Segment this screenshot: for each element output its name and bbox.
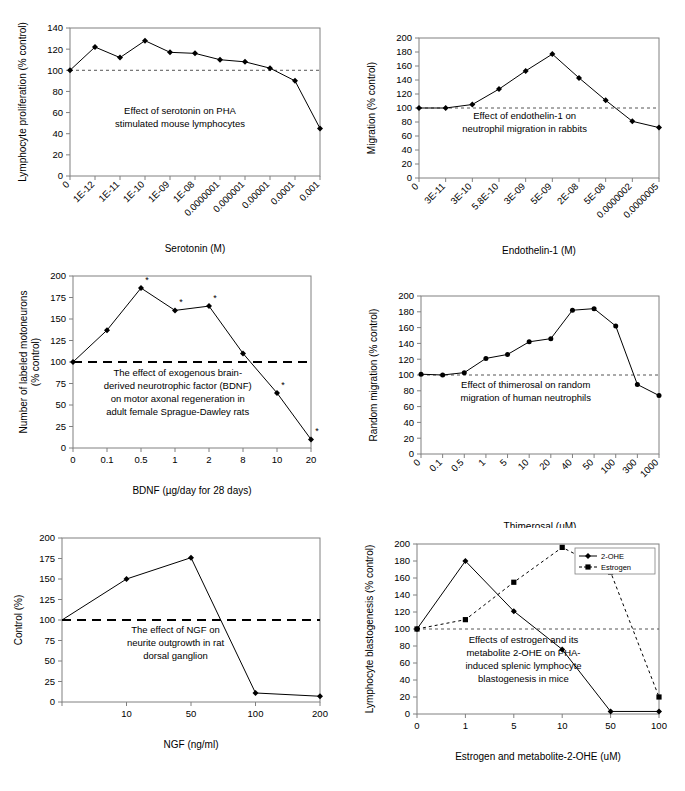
y-axis-title: Control (%): [13, 595, 24, 646]
x-tick-label: 40: [559, 457, 574, 472]
y-tick-label: 160: [394, 572, 410, 583]
chart-panel-serotonin: 02040608010012014001E-121E-111E-101E-091…: [0, 0, 343, 264]
x-tick-label: 50: [186, 708, 197, 719]
chart-annotation-line: The effect of exogenous brain-: [113, 367, 242, 378]
y-tick-label: 0: [61, 442, 66, 453]
significance-asterisk: *: [179, 297, 183, 307]
y-tick-label: 175: [39, 553, 55, 564]
y-tick-label: 200: [396, 32, 412, 43]
y-tick-label: 20: [403, 433, 414, 444]
y-tick-label: 160: [398, 322, 414, 333]
y-tick-label: 50: [44, 655, 55, 666]
y-axis-title: Number of labeled motoneurons: [18, 291, 29, 434]
y-tick-label: 50: [55, 399, 66, 410]
y-tick-label: 40: [399, 674, 410, 685]
y-tick-label: 80: [401, 116, 412, 127]
y-tick-label: 20: [52, 149, 63, 160]
y-tick-label: 150: [39, 573, 55, 584]
x-tick-label: 0.1: [100, 454, 113, 465]
chart-annotation-line: Effect of serotonin on PHA: [124, 105, 236, 116]
chart-annotation-line: The effect of NGF on: [131, 624, 220, 635]
y-tick-label: 100: [396, 102, 412, 113]
x-tick-label: 100: [248, 708, 264, 719]
chart-annotation-line: neurite outgrowth in rat: [127, 637, 225, 648]
y-tick-label: 140: [394, 589, 410, 600]
significance-asterisk: *: [213, 293, 217, 303]
y-tick-label: 100: [47, 65, 63, 76]
y-tick-label: 140: [47, 22, 63, 33]
x-tick-label: 2: [206, 454, 211, 465]
y-axis-title: Random migration (% control): [368, 309, 379, 442]
x-tick-label: 300: [620, 457, 639, 476]
y-tick-label: 140: [396, 74, 412, 85]
x-tick-label: 5.8E-10: [469, 181, 500, 212]
x-tick-label: 0.5: [449, 457, 466, 474]
chart-annotation-line: Effect of thimerosal on random: [461, 379, 590, 390]
chart-annotation-line: blastogenesis in mice: [478, 673, 569, 684]
chart-annotation-line: Effect of endothelin-1 on: [473, 110, 576, 121]
y-tick-label: 60: [52, 107, 63, 118]
chart-annotation-line: neutrophil migration in rabbits: [462, 123, 587, 134]
x-tick-label: 0.0001: [268, 179, 296, 207]
x-tick-label: 200: [312, 708, 328, 719]
chart-panel-d-thimerosal: 02040608010012014016018020000.10.5151020…: [343, 264, 685, 528]
y-tick-label: 25: [44, 676, 55, 687]
x-tick-label: 8: [240, 454, 245, 465]
x-tick-label: 5E-09: [528, 181, 554, 207]
figure-panel-grid: 02040608010012014001E-121E-111E-101E-091…: [0, 0, 685, 791]
chart-panel-endothelin: 02040608010012014016018020003E-113E-105.…: [343, 0, 685, 264]
chart-panel-f-estrogen: 0204060801001201401601802000151050100Lym…: [343, 528, 685, 791]
y-tick-label: 20: [401, 158, 412, 169]
chart-annotation-line: induced splenic lymphocyte: [465, 660, 581, 671]
x-tick-label: 0.00001: [239, 179, 271, 211]
significance-asterisk: *: [281, 380, 285, 390]
x-tick-label: 20: [537, 457, 552, 472]
x-axis-title: NGF (ng/ml): [164, 739, 219, 750]
chart-panel-thimerosal: 02040608010012014016018020000.10.5151020…: [343, 264, 685, 528]
x-tick-label: 1: [476, 457, 488, 469]
y-tick-label: 160: [396, 60, 412, 71]
x-tick-label: 0: [70, 454, 75, 465]
x-tick-label: 1E-09: [146, 179, 172, 205]
y-axis-title: Lymphocyte blastogenesis (% control): [364, 545, 375, 714]
x-tick-label: 10: [515, 457, 530, 472]
y-tick-label: 140: [398, 338, 414, 349]
x-axis-title: Estrogen and metabolite-2-OHE (uM): [455, 751, 621, 762]
x-tick-label: 0.5: [134, 454, 147, 465]
y-tick-label: 60: [403, 401, 414, 412]
y-tick-label: 100: [39, 614, 55, 625]
legend-label: Estrogen: [601, 563, 631, 572]
chart-panel-bdnf: 025507510012515017520000.10.51281020****…: [0, 264, 343, 528]
x-tick-label: 10: [121, 708, 132, 719]
y-tick-label: 125: [50, 335, 66, 346]
x-axis-title: Thimerosal (uM): [504, 521, 577, 528]
y-tick-label: 200: [398, 290, 414, 301]
y-tick-label: 200: [394, 538, 410, 549]
y-tick-label: 0: [50, 696, 55, 707]
chart-panel-a-serotonin: 02040608010012014001E-121E-111E-101E-091…: [0, 0, 343, 264]
y-tick-label: 200: [50, 270, 66, 281]
x-tick-label: 1E-11: [96, 179, 121, 204]
x-tick-label: 50: [580, 457, 595, 472]
x-tick-label: 100: [598, 457, 617, 476]
y-tick-label: 40: [403, 417, 414, 428]
legend-label: 2-OHE: [601, 552, 624, 561]
chart-annotation-line: stimulated mouse lymphocytes: [115, 118, 245, 129]
chart-panel-e-ngf: 02550751001251501752001050100200Control …: [0, 528, 343, 791]
x-tick-label: 1: [172, 454, 177, 465]
y-tick-label: 40: [401, 144, 412, 155]
x-tick-label: 0: [411, 457, 423, 469]
chart-annotation-line: dorsal ganglion: [143, 650, 207, 661]
chart-panel-ngf: 02550751001251501752001050100200Control …: [0, 528, 343, 791]
x-axis-title: Serotonin (M): [165, 243, 226, 254]
y-tick-label: 60: [401, 130, 412, 141]
x-tick-label: 1: [463, 720, 468, 731]
chart-panel-c-bdnf: 025507510012515017520000.10.51281020****…: [0, 264, 343, 528]
y-tick-label: 75: [44, 635, 55, 646]
x-tick-label: 5: [511, 720, 516, 731]
x-tick-label: 100: [651, 720, 667, 731]
y-tick-label: 180: [394, 555, 410, 566]
significance-asterisk: *: [315, 426, 319, 436]
y-tick-label: 150: [50, 313, 66, 324]
x-tick-label: 50: [605, 720, 616, 731]
